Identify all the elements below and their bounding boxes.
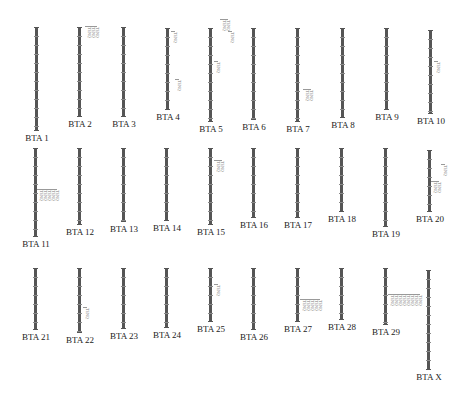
band-tick: [208, 82, 213, 83]
band-tick: [426, 279, 431, 280]
band-tick: [121, 286, 126, 287]
band-tick: [383, 193, 388, 194]
band-tick: [295, 184, 300, 185]
band-tick: [339, 211, 344, 212]
band-tick: [77, 63, 82, 64]
band-tick: [77, 211, 82, 212]
chromosome-label: BTA 9: [375, 112, 399, 122]
band-tick: [426, 360, 431, 361]
band-tick: [295, 100, 300, 101]
band-tick: [208, 109, 213, 110]
band-tick: [426, 351, 431, 352]
chromosome-15: [209, 148, 212, 225]
band-tick: [77, 286, 82, 287]
band-tick: [383, 202, 388, 203]
band-tick: [77, 220, 82, 221]
band-tick: [339, 295, 344, 296]
band-tick: [77, 202, 82, 203]
band-tick: [165, 64, 170, 65]
band-tick: [428, 111, 433, 112]
band-tick: [428, 39, 433, 40]
band-tick: [295, 118, 300, 119]
band-tick: [121, 108, 126, 109]
marker-leader-line: [53, 189, 57, 190]
band-tick: [340, 73, 345, 74]
band-tick: [295, 304, 300, 305]
band-tick: [251, 91, 256, 92]
marker-leader-line: [441, 164, 445, 165]
band-tick: [251, 193, 256, 194]
band-tick: [208, 184, 213, 185]
band-tick: [164, 202, 169, 203]
band-tick: [384, 100, 389, 101]
chromosome-label: BTA 21: [22, 332, 50, 342]
band-tick: [77, 313, 82, 314]
band-tick: [165, 73, 170, 74]
band-tick: [121, 166, 126, 167]
band-tick: [33, 313, 38, 314]
marker-leader-line: [175, 79, 179, 80]
band-tick: [383, 313, 388, 314]
chromosome-label: BTA 1: [25, 133, 49, 143]
band-tick: [208, 55, 213, 56]
qtl-marker-label: TENQ: [318, 300, 322, 311]
band-tick: [77, 295, 82, 296]
band-tick: [165, 100, 170, 101]
chromosome-17: [296, 148, 299, 218]
band-tick: [251, 184, 256, 185]
band-tick: [295, 166, 300, 167]
band-tick: [339, 286, 344, 287]
band-tick: [295, 211, 300, 212]
band-tick: [33, 166, 38, 167]
chromosome-2: [78, 27, 81, 117]
band-tick: [295, 73, 300, 74]
band-tick: [251, 46, 256, 47]
band-tick: [427, 195, 432, 196]
band-tick: [208, 157, 213, 158]
chromosome-label: BTA 6: [242, 122, 266, 132]
band-tick: [426, 333, 431, 334]
band-tick: [251, 82, 256, 83]
band-tick: [121, 295, 126, 296]
band-tick: [165, 82, 170, 83]
band-tick: [339, 193, 344, 194]
band-tick: [339, 175, 344, 176]
qtl-marker-label: TENQ: [216, 285, 220, 296]
band-tick: [77, 277, 82, 278]
band-tick: [251, 295, 256, 296]
band-tick: [384, 64, 389, 65]
band-tick: [33, 193, 38, 194]
band-tick: [33, 184, 38, 185]
band-tick: [428, 57, 433, 58]
band-tick: [339, 166, 344, 167]
qtl-marker-label: TENQ: [309, 90, 313, 101]
chromosome-29: [384, 268, 387, 325]
marker-leader-line: [214, 61, 218, 62]
band-tick: [251, 211, 256, 212]
band-tick: [33, 157, 38, 158]
band-tick: [121, 220, 126, 221]
chromosome-22: [78, 268, 81, 333]
chromosome-4: [166, 28, 169, 110]
band-tick: [77, 54, 82, 55]
band-tick: [208, 73, 213, 74]
chromosome-label: BTA 11: [22, 239, 50, 249]
chromosome-label: BTA 8: [331, 120, 355, 130]
band-tick: [208, 100, 213, 101]
band-tick: [208, 211, 213, 212]
marker-leader-line: [316, 299, 320, 300]
band-tick: [121, 193, 126, 194]
band-tick: [121, 211, 126, 212]
band-tick: [251, 118, 256, 119]
band-tick: [121, 63, 126, 64]
chromosome-label: BTA 4: [156, 112, 180, 122]
band-tick: [340, 64, 345, 65]
band-tick: [165, 55, 170, 56]
band-tick: [340, 100, 345, 101]
band-tick: [340, 82, 345, 83]
band-tick: [208, 286, 213, 287]
band-tick: [33, 304, 38, 305]
band-tick: [383, 166, 388, 167]
chromosome-label: BTA 25: [197, 324, 225, 334]
qtl-marker-label: TENQ: [85, 308, 89, 319]
